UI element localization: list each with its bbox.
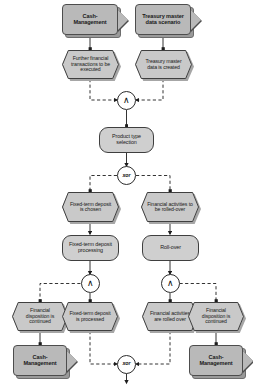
body: Fixed-term deposit processing [62, 235, 119, 261]
epc-diagram-canvas: Cash-Management Treasury master data sce… [0, 0, 253, 389]
connector-operator-label: xor [122, 173, 130, 178]
connector-operator-label: ∧ [167, 279, 174, 288]
body: Financial disposition is continued [12, 302, 68, 331]
event-treasury-master-data-is-created[interactable]: Treasury master data is created [135, 50, 192, 79]
event-label: Financial activities to be rolled-over [141, 202, 199, 213]
event-label: Further financial transactions to be exe… [62, 56, 119, 72]
body: Financial activities to be rolled-over [141, 192, 199, 222]
body: Treasury master data scenario [135, 4, 191, 35]
function-roll-over[interactable]: Roll-over [142, 235, 199, 261]
body: Roll-over [142, 235, 199, 261]
arrow-tip-icon [190, 9, 201, 31]
arrow-tip-icon [117, 9, 128, 31]
body: Cash-Management [189, 345, 243, 376]
function-product-type-selection[interactable]: Product type selection [99, 127, 154, 153]
body: Further financial transactions to be exe… [62, 50, 119, 79]
event-label: Financial disposition is continued [12, 308, 68, 324]
connector-and-left[interactable]: ∧ [81, 274, 100, 293]
process-path-label: Cash-Management [190, 355, 242, 367]
body: Financial disposition is continued [188, 302, 244, 331]
arrow-tip-icon [242, 350, 253, 372]
body: Treasury master data is created [135, 50, 192, 79]
process-path-cash-management-bottom-right[interactable]: Cash-Management [189, 345, 243, 376]
event-fixed-term-deposit-is-processed[interactable]: Fixed-term deposit is processed [62, 302, 118, 331]
process-path-label: Treasury master data scenario [136, 14, 190, 26]
connector-xor-middle[interactable]: xor [117, 166, 136, 185]
function-fixed-term-deposit-processing[interactable]: Fixed-term deposit processing [62, 235, 119, 261]
event-label: Financial disposition is continued [188, 308, 244, 324]
connector-xor-bottom[interactable]: xor [117, 355, 136, 374]
body: Cash-Management [13, 345, 67, 376]
event-fixed-term-deposit-is-chosen[interactable]: Fixed-term deposit is chosen [62, 192, 119, 222]
function-label: Roll-over [156, 245, 185, 251]
event-label: Fixed-term deposit is processed [62, 311, 118, 322]
body: Product type selection [99, 127, 154, 153]
connector-operator-label: xor [122, 361, 130, 366]
event-label: Fixed-term deposit is chosen [62, 202, 119, 213]
event-financial-disposition-is-continued-left[interactable]: Financial disposition is continued [12, 302, 68, 331]
arrow-tip-icon [66, 350, 77, 372]
event-financial-activities-to-be-rolled-over[interactable]: Financial activities to be rolled-over [141, 192, 199, 222]
body: Fixed-term deposit is chosen [62, 192, 119, 222]
function-label: Product type selection [100, 134, 153, 145]
body: Fixed-term deposit is processed [62, 302, 118, 331]
event-further-financial-transactions[interactable]: Further financial transactions to be exe… [62, 50, 119, 79]
process-path-label: Cash-Management [63, 14, 117, 26]
process-path-cash-management-top[interactable]: Cash-Management [62, 4, 118, 35]
process-path-treasury-master-data-scenario[interactable]: Treasury master data scenario [135, 4, 191, 35]
event-label: Treasury master data is created [135, 59, 192, 70]
process-path-label: Cash-Management [14, 355, 66, 367]
event-financial-disposition-is-continued-right[interactable]: Financial disposition is continued [188, 302, 244, 331]
function-label: Fixed-term deposit processing [63, 242, 118, 253]
connector-and-right[interactable]: ∧ [161, 274, 180, 293]
body: Cash-Management [62, 4, 118, 35]
process-path-cash-management-bottom-left[interactable]: Cash-Management [13, 345, 67, 376]
connector-and-top[interactable]: ∧ [117, 91, 136, 110]
connector-operator-label: ∧ [87, 279, 94, 288]
connector-operator-label: ∧ [123, 96, 130, 105]
